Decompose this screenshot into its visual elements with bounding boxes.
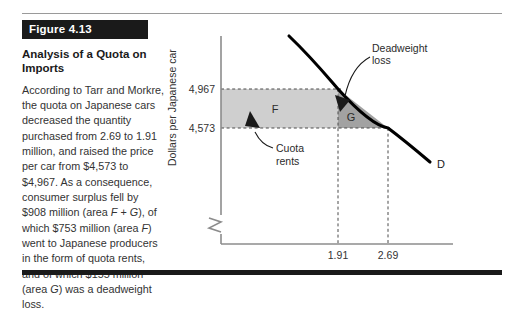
figure-number-badge: Figure 4.13 bbox=[22, 20, 148, 39]
body-text-part-1: According to Tarr and Morkre, the quota … bbox=[22, 84, 164, 219]
figure-title: Analysis of a Quota on Imports bbox=[22, 47, 162, 76]
top-divider-rule bbox=[22, 13, 502, 14]
area-f-label: F bbox=[272, 103, 279, 115]
area-g-label: G bbox=[347, 111, 356, 123]
deadweight-loss-annotation-line2: loss bbox=[372, 54, 391, 66]
deadweight-loss-leader-line bbox=[345, 57, 370, 96]
plus-sign: + bbox=[117, 206, 129, 218]
y-axis-title: Dollars per Japanese car bbox=[166, 49, 178, 166]
bottom-divider-rule bbox=[22, 270, 502, 275]
x-tick-label-191: 1.91 bbox=[328, 249, 349, 261]
cuota-rents-annotation-line2: rents bbox=[276, 155, 299, 167]
cuota-rents-leader-line bbox=[255, 132, 273, 148]
figure-caption-column: Figure 4.13 Analysis of a Quota on Impor… bbox=[22, 20, 162, 312]
cuota-rents-annotation-line1: Cuota bbox=[276, 142, 304, 154]
y-tick-label-4573: 4,573 bbox=[189, 122, 215, 134]
y-tick-label-4967: 4,967 bbox=[189, 83, 215, 95]
quota-analysis-chart: Dollars per Japanese car D 4,967 4,573 1… bbox=[165, 16, 505, 268]
area-f-rectangle bbox=[221, 89, 338, 128]
area-g-italic-2: G bbox=[50, 283, 58, 295]
figure-body-text: According to Tarr and Morkre, the quota … bbox=[22, 83, 165, 312]
x-tick-label-269: 2.69 bbox=[378, 249, 399, 261]
deadweight-loss-annotation-line1: Deadweight bbox=[372, 42, 428, 54]
area-g-italic-1: G bbox=[130, 206, 138, 218]
demand-curve-label: D bbox=[437, 158, 445, 170]
y-axis-break-symbol bbox=[209, 218, 221, 232]
